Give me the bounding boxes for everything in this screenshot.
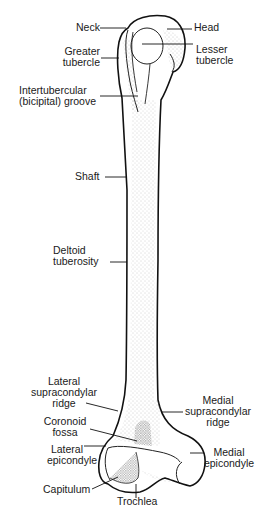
label-lateral-supracondylar-3: ridge [28, 398, 100, 409]
label-coronoid-2: fossa [38, 427, 92, 438]
humerus-diagram: Neck Head Greater tubercle Lesser tuberc… [0, 0, 274, 516]
label-capitulum: Capitulum [43, 484, 90, 495]
label-medial-supracondylar-3: ridge [182, 417, 254, 428]
label-head: Head [194, 22, 219, 33]
label-lesser-tubercle-2: tubercle [196, 55, 233, 66]
label-intertubercular-2: (bicipital) groove [19, 96, 96, 107]
label-shaft: Shaft [75, 171, 100, 182]
humerus-illustration [0, 0, 274, 516]
label-medial-epicondyle-2: epicondyle [200, 458, 258, 469]
label-neck: Neck [76, 22, 100, 33]
label-trochlea: Trochlea [117, 496, 157, 507]
label-lateral-epicondyle-2: epicondyle [42, 455, 102, 466]
label-greater-tubercle-2: tubercle [56, 57, 100, 68]
label-deltoid-2: tuberosity [53, 256, 99, 267]
